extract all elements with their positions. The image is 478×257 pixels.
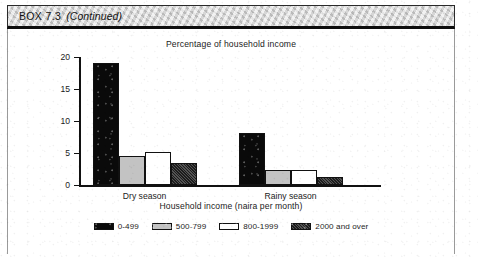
legend-item-800-1999[interactable]: 800-1999 xyxy=(219,222,278,231)
bar-dry-season-0-499 xyxy=(93,63,119,185)
bar-rainy-season-2000-and-over xyxy=(317,177,343,185)
bar-series-container xyxy=(81,57,381,185)
y-tick-15 xyxy=(74,89,79,90)
chart-title: Percentage of household income xyxy=(8,39,454,49)
box-body: Percentage of household income 05101520 … xyxy=(7,29,455,254)
bar-chart-plot-area: 05101520 xyxy=(79,57,381,185)
x-group-label-rainy-season: Rainy season xyxy=(265,191,317,201)
y-tick-label-10: 10 xyxy=(60,116,70,126)
bar-dry-season-800-1999 xyxy=(145,152,171,185)
page-bleed-text xyxy=(158,251,160,257)
legend-swatch-icon xyxy=(219,223,239,230)
legend-label: 800-1999 xyxy=(243,222,278,231)
bar-dry-season-500-799 xyxy=(119,156,145,185)
y-tick-20 xyxy=(74,57,79,58)
bar-rainy-season-800-1999 xyxy=(291,170,317,185)
x-axis-line xyxy=(79,185,381,187)
y-tick-label-15: 15 xyxy=(60,84,70,94)
box-continued-label: (Continued) xyxy=(66,10,122,22)
legend-item-500-799[interactable]: 500-799 xyxy=(152,222,206,231)
legend-swatch-icon xyxy=(291,223,311,230)
y-tick-label-0: 0 xyxy=(65,180,70,190)
y-tick-label-5: 5 xyxy=(65,148,70,158)
box-title: BOX 7.3(Continued) xyxy=(19,10,122,22)
bar-rainy-season-500-799 xyxy=(265,170,291,185)
y-tick-0 xyxy=(74,185,79,186)
legend-swatch-icon xyxy=(152,223,172,230)
legend-item-2000-and-over[interactable]: 2000 and over xyxy=(291,222,368,231)
box-header: BOX 7.3(Continued) xyxy=(7,5,455,29)
y-tick-10 xyxy=(74,121,79,122)
legend-label: 0-499 xyxy=(118,222,139,231)
legend-swatch-icon xyxy=(94,223,114,230)
x-axis-title: Household income (naira per month) xyxy=(8,201,454,211)
x-group-label-dry-season: Dry season xyxy=(123,191,166,201)
box-7-3-panel: BOX 7.3(Continued) Percentage of househo… xyxy=(7,5,455,257)
chart-legend: 0-499500-799800-19992000 and over xyxy=(8,222,454,231)
box-label: BOX 7.3 xyxy=(19,10,61,22)
y-tick-label-20: 20 xyxy=(60,52,70,62)
bar-dry-season-2000-and-over xyxy=(171,163,197,185)
legend-item-0-499[interactable]: 0-499 xyxy=(94,222,139,231)
legend-label: 2000 and over xyxy=(315,222,368,231)
y-tick-5 xyxy=(74,153,79,154)
bar-rainy-season-0-499 xyxy=(239,133,265,186)
legend-label: 500-799 xyxy=(176,222,206,231)
